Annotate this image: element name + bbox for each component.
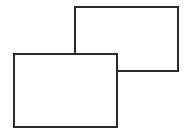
front-rectangle bbox=[13, 53, 118, 128]
